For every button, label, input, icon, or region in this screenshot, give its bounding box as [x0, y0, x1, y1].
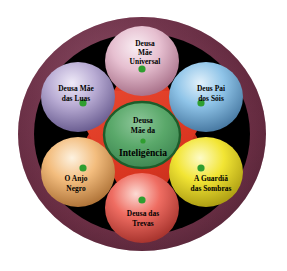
center-label-line3: Inteligência	[119, 147, 167, 158]
label-deusa-das-trevas-line2: Trevas	[132, 219, 153, 228]
label-o-anjo-negro-line1: O Anjo	[64, 174, 87, 183]
label-deus-pai-dos-sois-line1: Deus Pai	[197, 84, 225, 93]
label-deus-pai-dos-sois-line2: dos Sóis	[198, 94, 224, 103]
label-deusa-mae-universal-line2: Mãe	[138, 48, 153, 57]
sphere-a-guardia-das-sombras[interactable]	[169, 137, 243, 207]
mandala-svg-canvas: Deusa Mãe Universal Deus Pai dos Sóis A …	[0, 0, 287, 271]
center-label-line1: Deusa	[133, 116, 153, 125]
sphere-o-anjo-negro[interactable]	[41, 137, 115, 207]
mandala-diagram: Deusa Mãe Universal Deus Pai dos Sóis A …	[0, 0, 287, 271]
vertex-dot-top	[138, 65, 145, 72]
label-deusa-mae-das-luas-line1: Deusa Mãe	[58, 84, 94, 93]
label-deusa-das-trevas-line1: Deusa das	[127, 209, 159, 218]
center-separator-dot	[140, 138, 145, 143]
vertex-dot-bottom-left	[79, 164, 86, 171]
label-a-guardia-das-sombras-line1: A Guardiã	[194, 174, 228, 183]
vertex-dot-bottom	[138, 196, 145, 203]
label-deusa-mae-universal-line3: Universal	[130, 57, 161, 66]
vertex-dot-bottom-right	[197, 164, 204, 171]
label-a-guardia-das-sombras-line2: das Sombras	[190, 184, 231, 193]
label-o-anjo-negro-line2: Negro	[66, 184, 86, 193]
label-deusa-mae-universal-line1: Deusa	[135, 39, 155, 48]
center-label-line2: Mãe da	[131, 126, 155, 135]
label-deusa-mae-das-luas-line2: das Luas	[62, 94, 91, 103]
